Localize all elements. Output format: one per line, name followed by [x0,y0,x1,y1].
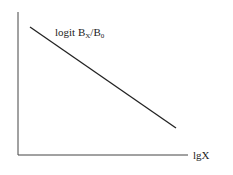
y-axis-label: logit BX/B0 [55,26,105,40]
x-axis-label: lgX [193,149,210,161]
logit-plot: logit BX/B0 lgX [0,0,233,175]
regression-line [30,27,176,128]
